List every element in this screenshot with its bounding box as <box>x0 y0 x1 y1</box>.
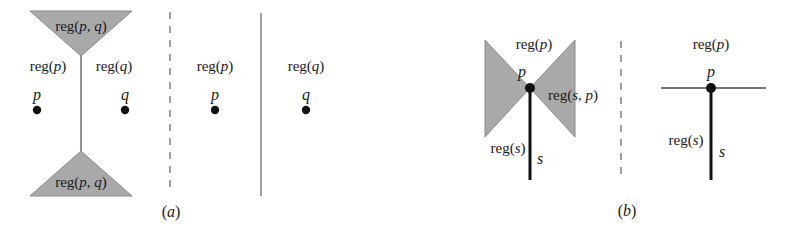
region-label-p: reg(p) <box>197 59 234 74</box>
left-shaded-triangle <box>485 40 530 137</box>
region-label-q: reg(q) <box>96 59 133 74</box>
segment-s-label: s <box>537 151 543 167</box>
region-label-p: reg(p) <box>516 37 553 52</box>
site-q-label: q <box>302 87 310 103</box>
caption-b: (b) <box>618 203 637 219</box>
voronoi-region-figure: reg(p, q) reg(p, q) reg(p) reg(q) p q re… <box>0 0 787 237</box>
site-q-dot <box>302 106 310 114</box>
site-p-dot <box>211 106 219 114</box>
site-q-label: q <box>121 87 129 103</box>
site-p-label: p <box>33 87 41 103</box>
site-p-dot <box>525 83 535 93</box>
region-label-p: reg(p) <box>30 59 67 74</box>
caption-a: (a) <box>162 204 181 220</box>
region-label-pq-bottom: reg(p, q) <box>55 175 107 190</box>
site-p-label: p <box>707 64 715 80</box>
region-label-q: reg(q) <box>288 59 325 74</box>
site-p-label: p <box>518 64 526 80</box>
site-p-dot <box>33 106 41 114</box>
figure-canvas <box>0 0 787 237</box>
region-label-p: reg(p) <box>693 37 730 52</box>
site-p-label: p <box>211 87 219 103</box>
region-label-s: reg(s) <box>491 141 526 156</box>
region-label-s: reg(s) <box>669 133 704 148</box>
region-label-pq-top: reg(p, q) <box>55 19 107 34</box>
site-p-dot <box>706 83 716 93</box>
site-q-dot <box>121 106 129 114</box>
segment-s-label: s <box>719 144 725 160</box>
region-label-s-p: reg(s, p) <box>548 88 598 103</box>
